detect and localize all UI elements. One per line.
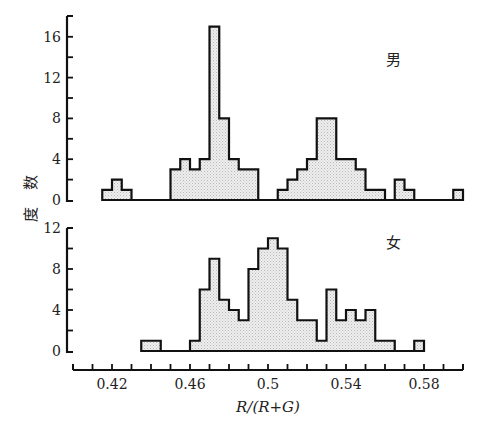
y-tick-label: 8 (52, 110, 61, 126)
male-y-axis: 0481216 (43, 16, 73, 208)
y-tick-label: 0 (52, 343, 61, 359)
male-histogram (102, 27, 463, 200)
y-tick-label: 0 (52, 192, 61, 208)
y-tick-label: 16 (43, 29, 61, 45)
x-tick-label: 0.54 (330, 376, 361, 392)
female-histogram-panel: 04812 女 (43, 220, 424, 359)
x-axis: 0.420.460.50.540.58 (73, 364, 463, 392)
male-label: 男 (386, 51, 401, 69)
x-axis-label: R/(R+G) (235, 398, 300, 416)
y-axis-label-char-1: 数 (22, 175, 40, 190)
female-y-axis: 04812 (43, 220, 73, 359)
male-histogram-panel: 0481216 男 (43, 16, 463, 208)
histogram-chart: 0481216 男 04812 女 数 度 0.420.460.50.540.5… (0, 0, 484, 426)
female-label: 女 (386, 234, 401, 252)
x-tick-label: 0.5 (257, 376, 279, 392)
y-tick-label: 4 (52, 151, 61, 167)
y-tick-label: 12 (43, 70, 61, 86)
x-tick-label: 0.58 (408, 376, 439, 392)
y-tick-label: 12 (43, 220, 61, 236)
y-axis-label-char-2: 度 (22, 207, 40, 222)
x-tick-label: 0.42 (96, 376, 127, 392)
x-tick-label: 0.46 (174, 376, 205, 392)
y-axis-label: 数 度 (22, 175, 40, 222)
y-tick-label: 8 (52, 261, 61, 277)
y-tick-label: 4 (52, 302, 61, 318)
female-histogram (141, 238, 424, 351)
